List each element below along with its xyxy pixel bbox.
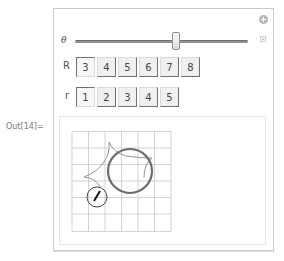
hypocycloid-plot — [0, 0, 284, 261]
fixed-circle — [108, 149, 152, 193]
rolling-radius — [94, 191, 100, 201]
grid — [72, 132, 171, 232]
